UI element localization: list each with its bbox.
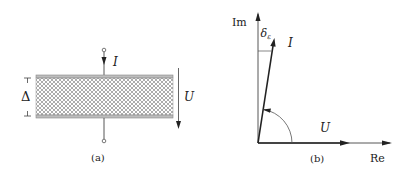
loss-angle-label: δε — [261, 27, 272, 41]
bottom-terminal-icon — [102, 139, 106, 143]
real-axis-arrow-icon — [382, 141, 392, 146]
current-label-a: I — [112, 55, 118, 69]
imag-axis-arrow-icon — [256, 12, 261, 21]
figure-canvas: I Δ U (a) Im Re U I — [0, 0, 412, 172]
bottom-electrode — [36, 115, 173, 118]
voltage-label-b: U — [320, 121, 331, 135]
voltage-phasor-arrow-icon — [340, 140, 350, 146]
current-arrow-icon — [102, 57, 107, 65]
thickness-label: Δ — [21, 89, 30, 104]
current-label-b: I — [287, 36, 293, 50]
voltage-arrow-icon — [176, 121, 181, 129]
caption-a: (a) — [91, 152, 105, 163]
voltage-label-a: U — [184, 90, 195, 104]
caption-b: (b) — [310, 153, 324, 164]
imag-axis-label: Im — [232, 16, 247, 29]
top-terminal-icon — [102, 48, 106, 52]
panel-a-dielectric-sample: I Δ U (a) — [21, 48, 195, 163]
dielectric-layer — [36, 78, 173, 115]
phase-angle-arc — [263, 109, 292, 143]
top-electrode — [36, 75, 173, 78]
current-phasor — [258, 46, 273, 143]
panel-b-phasor-diagram: Im Re U I δε (b) — [232, 12, 392, 165]
current-phasor-arrow-icon — [270, 38, 275, 47]
real-axis-label: Re — [370, 152, 385, 165]
